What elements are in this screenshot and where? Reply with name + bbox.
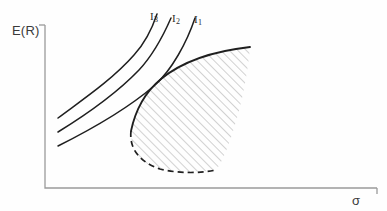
i2-subscript: 2 <box>176 17 180 26</box>
feasible-region-hatching <box>110 35 270 185</box>
chart-canvas <box>0 0 387 211</box>
i3-subscript: 3 <box>154 15 158 24</box>
efficient-frontier-figure: E(R) σ I3 I2 I1 <box>0 0 387 211</box>
i1-subscript: 1 <box>198 18 202 27</box>
x-axis-label: σ <box>352 193 360 208</box>
indifference-curve-label-i2: I2 <box>172 12 180 24</box>
indifference-curve-label-i3: I3 <box>150 10 158 22</box>
indifference-curve-label-i1: I1 <box>194 13 202 25</box>
y-axis-label: E(R) <box>12 23 40 38</box>
